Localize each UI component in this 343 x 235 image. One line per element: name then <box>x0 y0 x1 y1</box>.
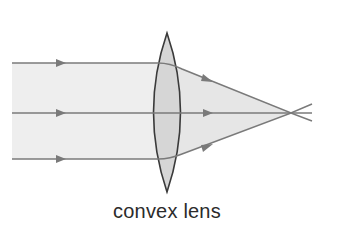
arrow-icon <box>201 74 213 82</box>
incoming-beam <box>12 63 167 159</box>
diagram-label: convex lens <box>0 200 334 223</box>
arrow-icon <box>201 144 213 152</box>
converging-beam <box>167 63 291 159</box>
